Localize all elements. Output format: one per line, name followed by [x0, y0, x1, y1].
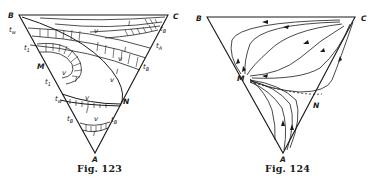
fig124-caption: Fig. 124: [265, 163, 310, 174]
fig124-vertex-c: C: [361, 14, 367, 23]
fig124-arrow-icons: [236, 20, 342, 130]
fig124-triangle: [207, 17, 355, 153]
fig123-caption: Fig. 123: [77, 163, 122, 174]
fig124-trajectories: [231, 20, 353, 150]
fig124-point-m: M: [237, 74, 245, 83]
figure-124: B C A M N: [0, 0, 371, 182]
fig124-vertex-b: B: [196, 14, 202, 23]
fig124-point-n: N: [313, 101, 320, 110]
